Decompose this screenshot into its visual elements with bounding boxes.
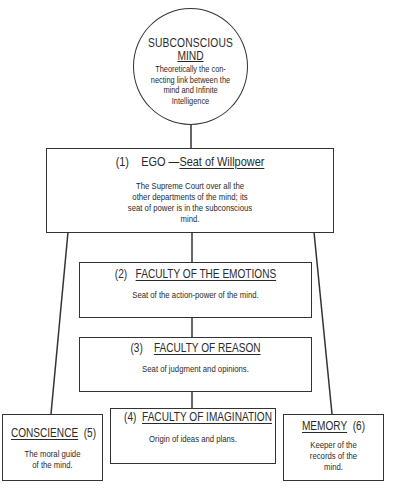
subconscious-description: Theoretically the con-necting link betwe… [142, 64, 239, 106]
ego-number: (1) [116, 154, 129, 169]
conscience-description-line: The moral guide [9, 449, 96, 460]
conscience-title: CONSCIENCE (5) [11, 426, 94, 440]
ego-title: (1) EGO —Seat of Willpower [70, 154, 310, 169]
imagination-description: Origin of ideas and plans. [121, 434, 265, 445]
memory-title: MEMORY (6) [292, 419, 375, 433]
imagination-number: (4) [124, 410, 136, 424]
emotions-title: (2) FACULTY OF THE EMOTIONS [98, 267, 292, 281]
memory-label: MEMORY [302, 419, 347, 433]
ego-name: EGO [141, 154, 165, 169]
emotions-label: FACULTY OF THE EMOTIONS [136, 267, 277, 281]
emotions-description: Seat of the action-power of the mind. [94, 290, 297, 301]
memory-node: MEMORY (6) Keeper of the records of the … [283, 414, 384, 481]
reason-number: (3) [130, 341, 142, 355]
subconscious-mind-node: SUBCONSCIOUS MIND Theoretically the con-… [133, 8, 248, 125]
conscience-number: (5) [84, 426, 96, 440]
connector-ego-memory [314, 232, 332, 414]
subconscious-title: SUBCONSCIOUS [144, 36, 237, 50]
memory-description-line: records of the [290, 451, 377, 462]
memory-number: (6) [353, 419, 365, 433]
reason-label: FACULTY OF REASON [154, 341, 261, 355]
reason-description: Seat of judgment and opinions. [94, 364, 297, 375]
ego-node: (1) EGO —Seat of Willpower The Supreme C… [46, 148, 334, 233]
imagination-title: (4) FACULTY OF IMAGINATION [124, 410, 262, 424]
connector-ego-conscience [51, 232, 68, 414]
subconscious-title-mind: MIND [144, 50, 237, 63]
ego-subtitle: Seat of Willpower [179, 154, 264, 169]
ego-description: The Supreme Court over all the other dep… [128, 181, 253, 225]
imagination-label: FACULTY OF IMAGINATION [142, 410, 272, 424]
reason-node: (3) FACULTY OF REASON Seat of judgment a… [79, 337, 312, 392]
memory-description: Keeper of the records of the mind. [290, 440, 377, 473]
ego-dash: — [168, 154, 179, 169]
reason-title: (3) FACULTY OF REASON [98, 341, 292, 355]
conscience-description: The moral guide of the mind. [9, 449, 96, 471]
conscience-description-line: of the mind. [9, 460, 96, 471]
imagination-node: (4) FACULTY OF IMAGINATION Origin of ide… [110, 408, 276, 464]
emotions-node: (2) FACULTY OF THE EMOTIONS Seat of the … [79, 262, 312, 318]
memory-description-line: Keeper of the [290, 440, 377, 451]
emotions-number: (2) [115, 267, 127, 281]
conscience-node: CONSCIENCE (5) The moral guide of the mi… [2, 414, 103, 481]
memory-description-line: mind. [290, 462, 377, 473]
conscience-label: CONSCIENCE [11, 426, 78, 440]
